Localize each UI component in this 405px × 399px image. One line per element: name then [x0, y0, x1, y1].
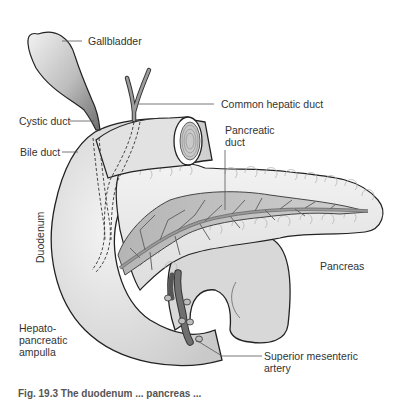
label-bile-duct: Bile duct — [20, 146, 60, 158]
label-gallbladder: Gallbladder — [88, 35, 142, 47]
label-pancreas: Pancreas — [320, 260, 364, 272]
label-pancreatic-duct: Pancreatic duct — [225, 124, 275, 148]
label-common-hepatic-duct: Common hepatic duct — [221, 98, 323, 110]
label-cystic-duct: Cystic duct — [19, 115, 70, 127]
figure-caption: Fig. 19.3 The duodenum ... pancreas ... — [18, 388, 201, 399]
label-superior-mesenteric-artery: Superior mesenteric artery — [264, 350, 358, 374]
label-hepatopancreatic-ampulla: Hepato- pancreatic ampulla — [19, 322, 67, 358]
common-hepatic-duct-shape — [127, 70, 149, 120]
label-duodenum: Duodenum — [34, 212, 46, 263]
